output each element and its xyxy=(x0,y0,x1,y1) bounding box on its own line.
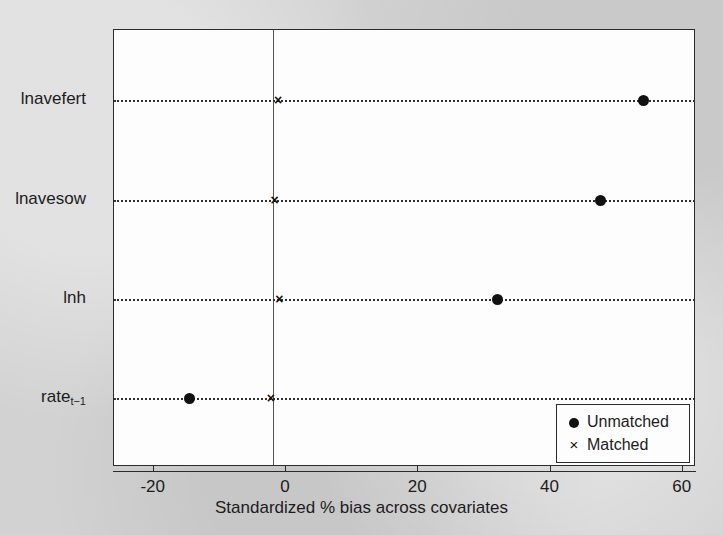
x-tick-20 xyxy=(417,466,418,472)
y-axis-label-rate: ratet−1 xyxy=(41,387,86,407)
legend-label-matched: Matched xyxy=(587,436,648,454)
gridline-lnavefert xyxy=(114,100,695,102)
plot-panel: ×××× xyxy=(113,29,695,466)
x-tick-40 xyxy=(550,466,551,472)
data-point-matched-rate: × xyxy=(264,392,277,405)
x-tick-label-20: 20 xyxy=(408,477,427,497)
legend-label-unmatched: Unmatched xyxy=(587,413,669,431)
data-point-unmatched-lnh xyxy=(492,294,503,305)
gridline-lnavesow xyxy=(114,200,695,202)
gridline-lnh xyxy=(114,299,695,301)
chart-legend: Unmatched × Matched xyxy=(556,404,690,463)
data-point-matched-lnavefert: × xyxy=(272,94,285,107)
x-axis-line xyxy=(113,471,696,472)
legend-item-unmatched: Unmatched xyxy=(565,410,681,433)
y-axis-label-lnavefert: lnavefert xyxy=(21,89,86,109)
y-axis-label-subscript: t−1 xyxy=(70,395,86,407)
x-tick-0 xyxy=(285,466,286,472)
x-axis-title: Standardized % bias across covariates xyxy=(0,498,723,518)
y-axis-label-lnavesow: lnavesow xyxy=(15,189,86,209)
x-tick-label-60: 60 xyxy=(672,477,691,497)
data-point-unmatched-rate xyxy=(184,393,195,404)
data-point-unmatched-lnavesow xyxy=(595,195,606,206)
y-axis-label-lnh: lnh xyxy=(63,288,86,308)
figure-container: ×××× lnavefertlnavesowlnhratet−1 -200204… xyxy=(0,0,723,535)
data-point-matched-lnh: × xyxy=(273,293,286,306)
x-tick-60 xyxy=(682,466,683,472)
x-tick-label--20: -20 xyxy=(140,477,165,497)
x-marker-icon: × xyxy=(565,437,583,452)
data-point-unmatched-lnavefert xyxy=(638,95,649,106)
data-point-matched-lnavesow: × xyxy=(268,194,281,207)
filled-circle-icon xyxy=(565,414,583,429)
x-tick--20 xyxy=(153,466,154,472)
legend-item-matched: × Matched xyxy=(565,433,681,456)
x-tick-label-40: 40 xyxy=(540,477,559,497)
x-tick-label-0: 0 xyxy=(280,477,289,497)
gridline-rate xyxy=(114,398,695,400)
